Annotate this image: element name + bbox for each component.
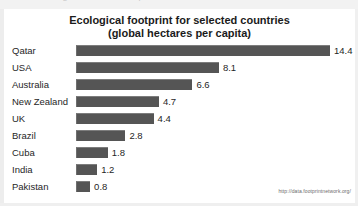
bar-row: USA8.1 xyxy=(4,60,355,77)
bar-value-label: 4.4 xyxy=(158,112,171,125)
bar-value-label: 4.7 xyxy=(163,95,176,108)
category-label: Pakistan xyxy=(12,180,76,193)
category-label: UK xyxy=(12,112,76,125)
bar-value-label: 1.2 xyxy=(101,163,114,176)
bar-value-label: 6.6 xyxy=(196,78,209,91)
bar-chart: Ecological footprint for selected countr… xyxy=(4,9,355,203)
cropped-text-remnant-label: Ecological footprint xyxy=(20,0,176,1)
bar-track: 6.6 xyxy=(76,79,355,90)
bar-track: 4.7 xyxy=(76,96,355,107)
bar[interactable] xyxy=(76,96,159,107)
bar-value-label: 14.4 xyxy=(334,44,353,57)
bar[interactable] xyxy=(76,62,219,73)
bar-value-label: 0.8 xyxy=(94,180,107,193)
bar-track: 14.4 xyxy=(76,45,355,56)
source-url[interactable]: http://data.footprintnetwork.org/ xyxy=(278,188,351,194)
chart-title: Ecological footprint for selected countr… xyxy=(4,14,355,27)
bar-row: New Zealand4.7 xyxy=(4,94,355,111)
bar[interactable] xyxy=(76,181,90,192)
bar[interactable] xyxy=(76,113,154,124)
bar-row: Brazil2.8 xyxy=(4,128,355,145)
plot-area: Qatar14.4USA8.1Australia6.6New Zealand4.… xyxy=(4,43,355,199)
bar-track: 4.4 xyxy=(76,113,355,124)
bar-track: 1.8 xyxy=(76,147,355,158)
bar-track: 2.8 xyxy=(76,130,355,141)
bar-value-label: 8.1 xyxy=(223,61,236,74)
bar[interactable] xyxy=(76,164,97,175)
category-label: USA xyxy=(12,61,76,74)
bar[interactable] xyxy=(76,79,192,90)
bar-track: 8.1 xyxy=(76,62,355,73)
bar-row: Australia6.6 xyxy=(4,77,355,94)
page-edge-bottom xyxy=(0,203,358,206)
chart-subtitle: (global hectares per capita) xyxy=(4,27,355,40)
bar[interactable] xyxy=(76,45,330,56)
category-label: Brazil xyxy=(12,129,76,142)
chart-title-block: Ecological footprint for selected countr… xyxy=(4,14,355,40)
bar[interactable] xyxy=(76,147,108,158)
bar[interactable] xyxy=(76,130,125,141)
category-label: Cuba xyxy=(12,146,76,159)
bar-row: UK4.4 xyxy=(4,111,355,128)
bar-row: Cuba1.8 xyxy=(4,145,355,162)
category-label: Australia xyxy=(12,78,76,91)
category-label: India xyxy=(12,163,76,176)
bar-value-label: 1.8 xyxy=(112,146,125,159)
bar-value-label: 2.8 xyxy=(129,129,142,142)
category-label: Qatar xyxy=(12,44,76,57)
bar-track: 1.2 xyxy=(76,164,355,175)
bar-row: Qatar14.4 xyxy=(4,43,355,60)
scanned-page: Ecological footprint Ecological footprin… xyxy=(0,0,358,206)
bar-row: India1.2 xyxy=(4,162,355,179)
category-label: New Zealand xyxy=(12,95,76,108)
cropped-text-remnant: Ecological footprint xyxy=(0,0,358,9)
